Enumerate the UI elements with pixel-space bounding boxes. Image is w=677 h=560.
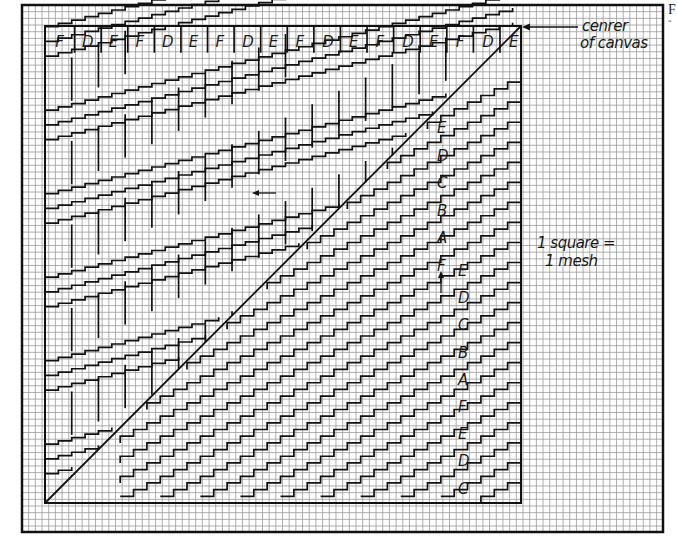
scale-line2: 1 mesh xyxy=(545,252,597,270)
right-column-2-letter: A xyxy=(457,371,468,389)
top-letter-cell: E xyxy=(109,33,119,51)
center-of-canvas-pointer: cenrer of canvas xyxy=(522,17,648,52)
cropped-figure-label: F xyxy=(668,2,676,18)
right-column-1-letter: C xyxy=(437,174,448,192)
top-letter-cell: F xyxy=(456,33,465,51)
right-column-1-letter: B xyxy=(437,202,447,220)
center-label-line2: of canvas xyxy=(580,34,648,52)
top-letter-cell: F xyxy=(376,33,385,51)
top-letter-cell: F xyxy=(215,33,224,51)
right-column-2-letter: E xyxy=(458,425,468,443)
top-letter-cell: F xyxy=(296,33,305,51)
right-column-2-letter: B xyxy=(458,344,468,362)
right-column-2-letter: C xyxy=(458,480,469,498)
right-column-1-letter: F xyxy=(437,257,446,275)
right-column-1-letter: E xyxy=(437,119,447,137)
top-letter-cell: D xyxy=(162,33,174,51)
top-letter-cell: E xyxy=(429,33,439,51)
top-letter-cell: D xyxy=(482,33,494,51)
right-column-2-letter: D xyxy=(458,289,470,307)
top-letter-cell: F xyxy=(55,33,64,51)
top-letter-cell: D xyxy=(82,33,94,51)
scale-line1: 1 square = xyxy=(537,234,615,252)
right-column-1-letter: A xyxy=(436,229,447,247)
top-letter-cell: D xyxy=(402,33,414,51)
center-label-line1: cenrer xyxy=(582,17,629,35)
top-letter-cell: E xyxy=(189,33,199,51)
top-letter-cell: E xyxy=(269,33,279,51)
top-letter-cell: F xyxy=(135,33,144,51)
right-column-2-letter: F xyxy=(458,398,467,416)
right-column-2-letter: C xyxy=(458,316,469,334)
right-column-2-letter: E xyxy=(458,262,468,280)
right-column-1-letter: D xyxy=(437,147,449,165)
top-letter-cell: E xyxy=(349,33,359,51)
top-letter-cell: D xyxy=(242,33,254,51)
top-letter-cell: D xyxy=(322,33,334,51)
bargello-chart: FDEFDEFDEFDEFDEFDE EDCBAFEDCBAFEDC cenre… xyxy=(0,0,677,560)
right-column-2-letter: D xyxy=(458,452,470,470)
top-letter-cell: E xyxy=(509,33,519,51)
cropped-figure-caption: “ xyxy=(668,18,672,27)
